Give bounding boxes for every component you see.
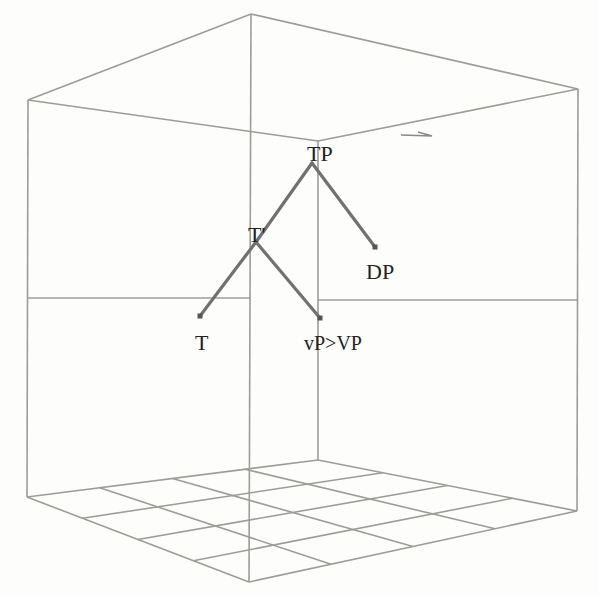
top-edge-left-front xyxy=(28,100,318,141)
tree-branches xyxy=(200,163,375,318)
box-top-face xyxy=(28,14,578,141)
tree-branch-tp-dp xyxy=(312,163,375,247)
tree-labels: TP T' DP T vP>VP xyxy=(195,141,394,355)
node-label-tbar: T' xyxy=(248,222,265,247)
floor-grid-line xyxy=(318,460,577,511)
top-edge-back-right xyxy=(251,14,578,89)
tree-branch-tbar-t xyxy=(200,242,256,316)
node-dot-dp xyxy=(373,245,378,250)
arrow-mark-icon xyxy=(401,132,432,136)
diagram-canvas: TP T' DP T vP>VP xyxy=(0,0,599,597)
floor-grid-line xyxy=(194,498,513,561)
vertical-edge-left xyxy=(27,100,28,497)
floor-grid xyxy=(27,460,577,582)
top-edge-left-back xyxy=(28,14,251,100)
node-label-dp: DP xyxy=(366,259,394,284)
node-dot-t xyxy=(198,314,203,319)
top-edge-front-right xyxy=(318,89,578,141)
floor-grid-line xyxy=(245,469,495,529)
node-label-t: T xyxy=(195,330,209,355)
tree-branch-tbar-vp xyxy=(256,242,320,318)
floor-grid-line xyxy=(249,511,577,582)
node-label-vp: vP>VP xyxy=(304,332,362,354)
node-dot-vp xyxy=(318,316,323,321)
tree-box-diagram: TP T' DP T vP>VP xyxy=(0,0,599,597)
floor-grid-line xyxy=(138,486,448,540)
node-label-tp: TP xyxy=(307,141,333,166)
